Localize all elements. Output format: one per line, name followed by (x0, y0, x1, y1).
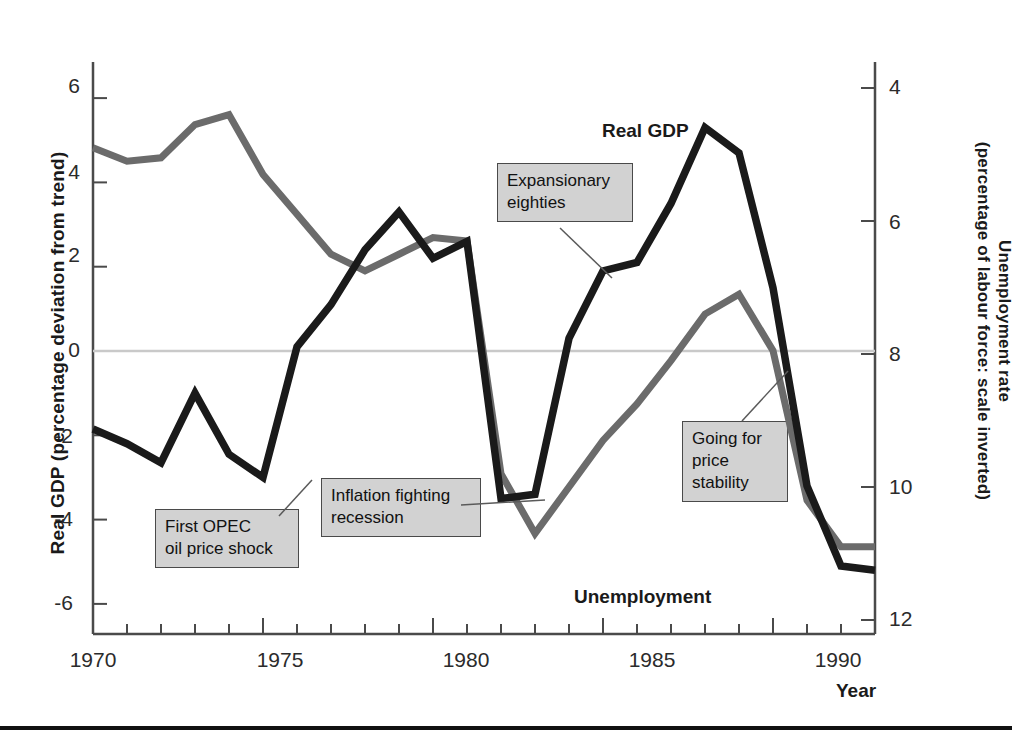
leader-expansionary-eighties (560, 228, 612, 278)
unemployment-line (93, 115, 875, 547)
chart-figure: Real GDP (percentage deviation from tren… (0, 0, 1012, 754)
x-axis-ticks (93, 618, 875, 634)
plot-canvas (0, 0, 1012, 754)
right-axis-ticks (861, 88, 875, 620)
leader-first-opec (279, 480, 312, 516)
footer-rule (0, 726, 1012, 730)
